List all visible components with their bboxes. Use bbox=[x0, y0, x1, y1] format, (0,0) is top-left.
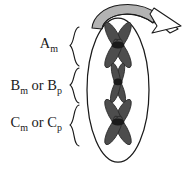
label-a: Am bbox=[40, 35, 58, 54]
chromosome-c-centromere bbox=[112, 118, 125, 125]
label-c-tail-base: C bbox=[47, 114, 57, 130]
label-b-tail-subscript: p bbox=[57, 85, 62, 96]
label-b-tail-base: B bbox=[47, 77, 57, 93]
figure-root: Am Bm or Bp Cm or Cp bbox=[0, 0, 184, 169]
brace-c bbox=[70, 105, 79, 146]
label-c-base: C bbox=[11, 114, 21, 130]
brace-b bbox=[70, 68, 79, 103]
label-b-conjunction: or bbox=[28, 77, 47, 93]
label-b-base: B bbox=[11, 77, 21, 93]
label-a-base: A bbox=[40, 35, 51, 51]
brace-a bbox=[70, 27, 79, 66]
chromosome-a-centromere bbox=[112, 41, 125, 48]
chromosome-diagram: Am Bm or Bp Cm or Cp bbox=[0, 0, 184, 169]
label-b: Bm or Bp bbox=[11, 77, 62, 96]
label-c: Cm or Cp bbox=[11, 114, 62, 133]
label-c-tail-subscript: p bbox=[57, 122, 62, 133]
label-c-conjunction: or bbox=[28, 114, 47, 130]
label-a-subscript: m bbox=[50, 43, 58, 54]
chromosome-b-centromere bbox=[113, 79, 122, 85]
